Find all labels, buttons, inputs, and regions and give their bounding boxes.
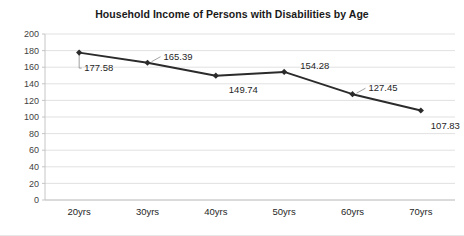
data-labels: 177.58165.39149.74154.28127.45107.83: [84, 51, 460, 131]
y-axis-tick-label: 180: [24, 46, 39, 56]
y-axis-tick-label: 200: [24, 29, 39, 39]
data-label-leader-line: [152, 57, 161, 62]
y-axis-tick-labels: 200180160140120100806040200: [24, 29, 39, 205]
y-axis-tick-label: 100: [24, 112, 39, 122]
data-point-marker: [349, 91, 355, 97]
data-label: 177.58: [84, 62, 113, 73]
x-axis-tick-label: 20yrs: [68, 206, 91, 217]
y-axis-tick-label: 160: [24, 62, 39, 72]
y-axis-tick-label: 140: [24, 79, 39, 89]
y-axis-tick-label: 20: [29, 179, 39, 189]
data-label: 154.28: [300, 60, 329, 71]
x-axis-tick-label: 60yrs: [341, 206, 364, 217]
chart-container: Household Income of Persons with Disabil…: [0, 0, 464, 236]
line-chart-plot: 200180160140120100806040200 20yrs30yrs40…: [0, 0, 464, 236]
y-axis-tick-label: 60: [29, 145, 39, 155]
gridlines: [45, 34, 455, 200]
x-axis-tick-label: 40yrs: [204, 206, 227, 217]
data-point-marker: [144, 60, 150, 66]
data-point-marker: [281, 69, 287, 75]
y-axis-tick-label: 40: [29, 162, 39, 172]
y-axis-tick-label: 120: [24, 96, 39, 106]
y-axis-tick-label: 80: [29, 129, 39, 139]
x-axis-tick-labels: 20yrs30yrs40yrs50yrs60yrs70yrs: [68, 206, 433, 217]
data-label: 165.39: [164, 51, 193, 62]
data-point-marker: [418, 107, 424, 113]
data-point-marker: [213, 73, 219, 79]
x-axis-tick-label: 70yrs: [409, 206, 432, 217]
data-label-leader-line: [357, 88, 366, 93]
y-axis-tick-label: 0: [34, 195, 39, 205]
data-label: 107.83: [431, 120, 460, 131]
x-axis-tick-label: 30yrs: [136, 206, 159, 217]
x-axis-tick-label: 50yrs: [273, 206, 296, 217]
data-label-leader-line: [79, 55, 82, 68]
data-label: 149.74: [229, 84, 258, 95]
data-label: 127.45: [369, 82, 398, 93]
